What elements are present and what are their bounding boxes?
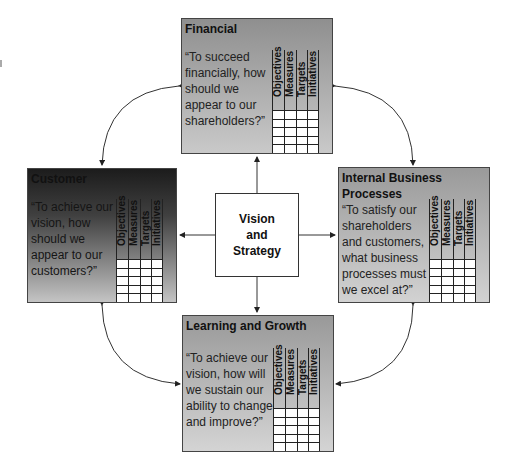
vision-and-strategy-label: Vision and Strategy [227, 211, 287, 259]
grid-header-measures: Measures [128, 200, 139, 246]
financial-perspective-box: Financial “To succeed financially, how s… [181, 18, 333, 154]
internal-title: Internal Business Processes [342, 170, 472, 202]
internal-question: “To satisfy our shareholders and custome… [342, 202, 430, 298]
grid-header-measures: Measures [441, 200, 452, 246]
internal-scorecard-grid: Objectives Measures Targets Initiatives [429, 199, 476, 302]
vision-and-strategy-box: Vision and Strategy [215, 193, 299, 277]
grid-header-objectives: Objectives [273, 344, 284, 395]
grid-header-objectives: Objectives [429, 195, 440, 246]
grid-header-initiatives: Initiatives [307, 51, 318, 97]
grid-header-measures: Measures [284, 51, 295, 97]
customer-perspective-box: Customer “To achieve our vision, how sho… [27, 168, 177, 303]
financial-title: Financial [185, 21, 275, 37]
learning-and-growth-box: Learning and Growth “To achieve our visi… [182, 315, 334, 452]
grid-header-targets: Targets [453, 211, 464, 246]
learning-scorecard-grid: Objectives Measures Targets Initiatives [273, 348, 320, 451]
customer-question: “To achieve our vision, how should we ap… [31, 199, 119, 279]
grid-header-initiatives: Initiatives [464, 200, 475, 246]
customer-title: Customer [31, 171, 121, 187]
grid-header-objectives: Objectives [272, 46, 283, 97]
grid-header-measures: Measures [285, 349, 296, 395]
learning-question: “To achieve our vision, how will we sust… [186, 350, 274, 430]
grid-header-objectives: Objectives [116, 195, 127, 246]
grid-header-targets: Targets [140, 211, 151, 246]
grid-header-initiatives: Initiatives [151, 200, 162, 246]
learning-title: Learning and Growth [186, 318, 316, 334]
grid-header-initiatives: Initiatives [308, 349, 319, 395]
financial-scorecard-grid: Objectives Measures Targets Initiatives [272, 50, 319, 153]
financial-question: “To succeed financially, how should we a… [185, 49, 273, 129]
grid-header-targets: Targets [297, 360, 308, 395]
customer-scorecard-grid: Objectives Measures Targets Initiatives [116, 199, 163, 302]
internal-business-processes-box: Internal Business Processes “To satisfy … [338, 167, 490, 303]
grid-header-targets: Targets [296, 62, 307, 97]
